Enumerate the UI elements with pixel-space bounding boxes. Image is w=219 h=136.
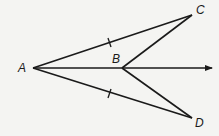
tick-mark-ad bbox=[108, 89, 111, 98]
label-b: B bbox=[112, 52, 120, 66]
geometry-diagram: A B C D bbox=[0, 0, 219, 136]
label-a: A bbox=[17, 61, 26, 75]
segment-bc bbox=[122, 15, 192, 68]
label-d: D bbox=[195, 116, 204, 130]
segment-ad bbox=[33, 68, 192, 118]
label-c: C bbox=[196, 3, 205, 17]
segment-bd bbox=[122, 68, 192, 118]
